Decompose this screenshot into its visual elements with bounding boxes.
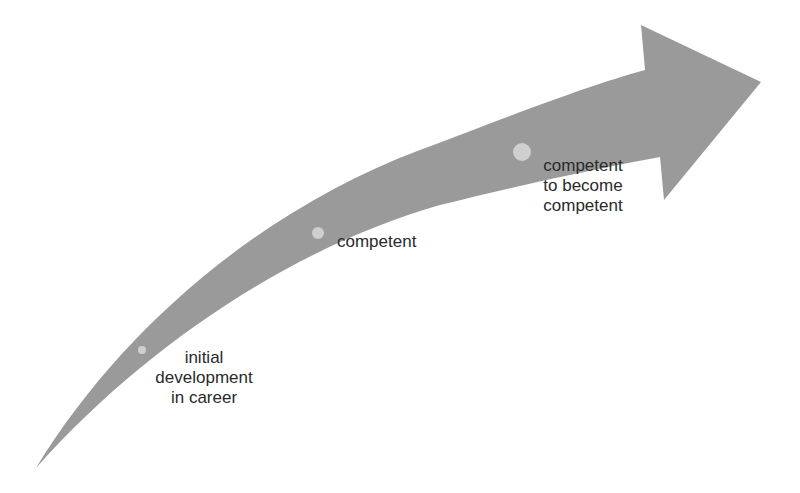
stage-dot-competent <box>312 227 324 239</box>
stage-label-initial: initial development in career <box>144 348 264 408</box>
label-line: development <box>144 368 264 388</box>
label-line: in career <box>144 388 264 408</box>
label-line: competent <box>541 196 625 216</box>
label-line: competent <box>541 156 625 176</box>
label-line: to become <box>541 176 625 196</box>
stage-label-advanced: competent to become competent <box>541 156 625 216</box>
label-line: initial <box>144 348 264 368</box>
stage-dot-advanced <box>513 143 531 161</box>
label-line: competent <box>337 232 416 252</box>
stage-label-competent: competent <box>337 232 416 252</box>
